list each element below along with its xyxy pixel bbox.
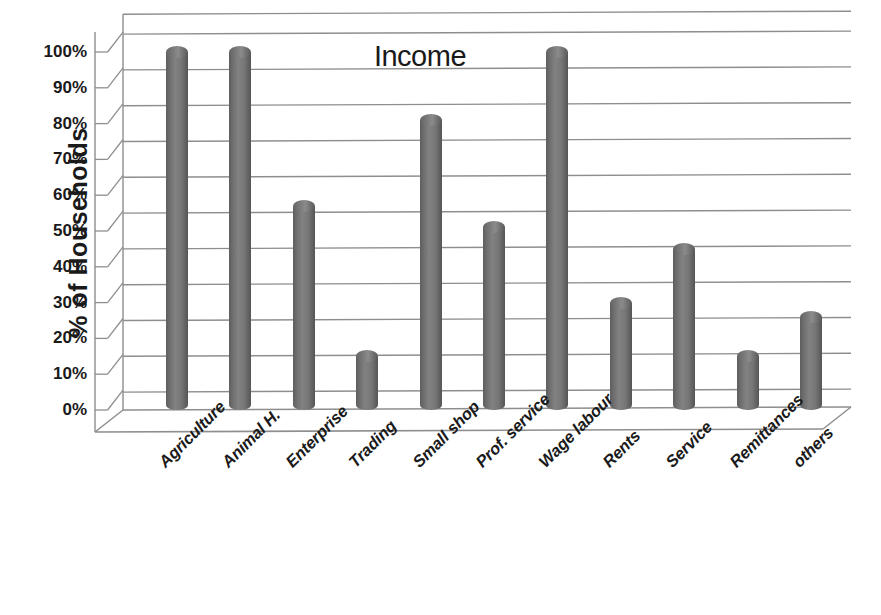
y-axis-tick-label: 40% xyxy=(25,258,87,275)
bar-body xyxy=(229,52,251,410)
bar xyxy=(420,114,442,410)
plot-area xyxy=(95,38,865,423)
bar-body xyxy=(800,317,822,410)
y-tick-riser xyxy=(108,175,123,195)
y-tick-riser xyxy=(108,104,123,124)
bar xyxy=(356,350,378,410)
bar-body xyxy=(356,356,378,410)
bar-top-cap xyxy=(800,311,822,323)
bar-body xyxy=(293,206,315,410)
chart-title: Income xyxy=(300,40,540,73)
y-tick-riser xyxy=(108,140,123,160)
bar xyxy=(293,200,315,410)
bar-body xyxy=(673,249,695,410)
y-axis-tick-label: 70% xyxy=(25,150,87,167)
y-axis-tick-label: 30% xyxy=(25,294,87,311)
y-tick-riser xyxy=(108,319,123,339)
floor-left-edge xyxy=(95,410,123,432)
bar xyxy=(546,46,568,410)
y-tick-riser xyxy=(108,283,123,303)
bar-body xyxy=(737,356,759,410)
y-axis-tick-label: 60% xyxy=(25,186,87,203)
y-tick-riser xyxy=(108,390,123,410)
bar-body xyxy=(483,227,505,410)
bar-body xyxy=(610,303,632,410)
y-tick-riser xyxy=(108,68,123,88)
bar xyxy=(166,46,188,410)
gridline xyxy=(123,31,851,34)
bar xyxy=(610,297,632,410)
bar xyxy=(673,243,695,410)
bar-body xyxy=(546,52,568,410)
bar-top-cap xyxy=(420,114,442,126)
bar-body xyxy=(166,52,188,410)
y-axis-tick-label: 10% xyxy=(25,365,87,382)
y-tick-riser xyxy=(108,354,123,374)
y-axis-tick-label: 90% xyxy=(25,79,87,96)
y-axis-tick-label: 80% xyxy=(25,115,87,132)
y-axis-tick-label: 100% xyxy=(25,43,87,60)
y-tick-riser xyxy=(108,32,123,52)
bar-top-cap xyxy=(293,200,315,212)
bar-top-cap xyxy=(610,297,632,309)
bar xyxy=(737,350,759,410)
y-tick-riser xyxy=(108,247,123,267)
bar-top-cap xyxy=(166,46,188,58)
bar-chart: % of Households 0%10%20%30%40%50%60%70%8… xyxy=(0,0,881,615)
bar xyxy=(483,221,505,410)
bar-top-cap xyxy=(229,46,251,58)
y-axis-tick-label: 20% xyxy=(25,329,87,346)
y-tick-riser xyxy=(108,211,123,231)
gridline-top xyxy=(123,11,851,14)
bar-body xyxy=(420,120,442,410)
bar xyxy=(800,311,822,410)
y-axis-tick-label: 50% xyxy=(25,222,87,239)
bar xyxy=(229,46,251,410)
y-axis-tick-label: 0% xyxy=(25,401,87,418)
